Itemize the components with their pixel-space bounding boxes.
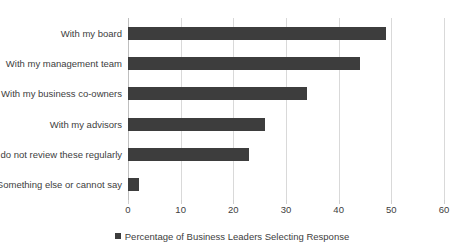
category-label-slot: I do not review these regularly (0, 139, 122, 169)
x-axis-tick-label: 60 (439, 204, 450, 215)
bar-slot (128, 109, 444, 139)
bar-slot (128, 18, 444, 48)
x-axis-tick-label: 10 (175, 204, 186, 215)
bar[interactable] (128, 148, 249, 161)
x-axis-tick-labels: 0102030405060 (128, 204, 444, 218)
gridline (444, 18, 445, 200)
category-label-slot: With my advisors (0, 109, 122, 139)
category-label: With my board (61, 28, 122, 39)
legend-label: Percentage of Business Leaders Selecting… (125, 231, 349, 242)
category-label-slot: Something else or cannot say (0, 170, 122, 200)
bar[interactable] (128, 118, 265, 131)
category-label-slot: With my board (0, 18, 122, 48)
category-label: Something else or cannot say (0, 179, 122, 190)
category-label: I do not review these regularly (0, 149, 122, 160)
category-label: With my advisors (50, 119, 122, 130)
category-label-slot: With my business co-owners (0, 79, 122, 109)
bar[interactable] (128, 57, 360, 70)
bar-chart-figure: With my boardWith my management teamWith… (0, 0, 458, 247)
bar[interactable] (128, 178, 139, 191)
x-axis-tick-label: 20 (228, 204, 239, 215)
bar[interactable] (128, 27, 386, 40)
bars-layer (128, 18, 444, 200)
bar-slot (128, 139, 444, 169)
category-axis-labels: With my boardWith my management teamWith… (0, 18, 122, 200)
legend-color-swatch-icon (115, 233, 121, 239)
chart-legend: Percentage of Business Leaders Selecting… (0, 228, 458, 244)
bar-slot (128, 170, 444, 200)
bar-slot (128, 79, 444, 109)
x-axis-tick-label: 0 (125, 204, 130, 215)
x-axis-tick-label: 50 (386, 204, 397, 215)
category-label: With my management team (6, 58, 122, 69)
bar[interactable] (128, 87, 307, 100)
bar-slot (128, 48, 444, 78)
category-label-slot: With my management team (0, 48, 122, 78)
x-axis-tick-label: 30 (281, 204, 292, 215)
category-label: With my business co-owners (1, 88, 122, 99)
x-axis-tick-label: 40 (333, 204, 344, 215)
